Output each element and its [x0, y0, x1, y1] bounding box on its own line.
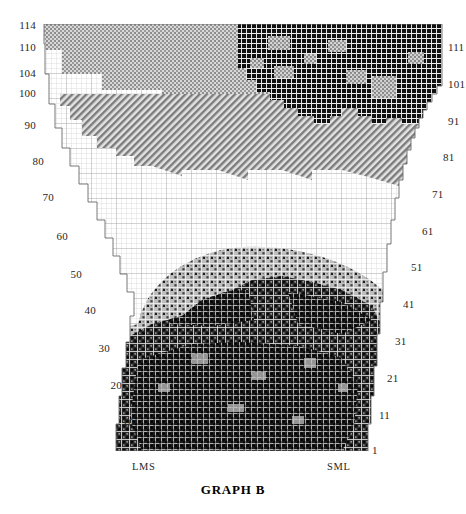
axis-right-tick-31: 31	[395, 336, 406, 347]
bottom-tag-lms: LMS	[132, 461, 155, 472]
axis-right-tick-61: 61	[422, 226, 433, 237]
axis-left-tick-30: 30	[84, 343, 110, 354]
bottom-tag-sml: SML	[327, 461, 350, 472]
axis-left-tick-80: 80	[18, 156, 44, 167]
axis-right-tick-111: 111	[448, 42, 464, 53]
axis-right-tick-41: 41	[403, 299, 414, 310]
axis-right-tick-101: 101	[448, 79, 465, 90]
axis-left-tick-40: 40	[70, 305, 96, 316]
axis-left-tick-50: 50	[56, 269, 82, 280]
band-layer-base	[42, 274, 444, 451]
axis-left-tick-114: 114	[4, 20, 36, 31]
axis-right-tick-21: 21	[387, 373, 398, 384]
axis-left-tick-70: 70	[28, 192, 54, 203]
axis-left-tick-110: 110	[4, 42, 36, 53]
axis-left-tick-104: 104	[4, 68, 36, 79]
axis-left-tick-60: 60	[42, 231, 68, 242]
axis-left-tick-20: 20	[96, 380, 122, 391]
graph-figure: 114 110 104 100 90 80 70 60 50 40 30 20 …	[0, 0, 466, 514]
axis-right-tick-51: 51	[411, 262, 422, 273]
axis-right-tick-71: 71	[432, 189, 443, 200]
axis-right-tick-91: 91	[448, 116, 459, 127]
axis-left-tick-90: 90	[10, 120, 36, 131]
axis-right-tick-1: 1	[372, 445, 378, 456]
axis-right-tick-11: 11	[379, 410, 390, 421]
axis-left-tick-10: 10	[108, 417, 134, 428]
figure-caption: GRAPH B	[0, 482, 466, 498]
axis-left-tick-100: 100	[4, 88, 36, 99]
axis-right-tick-81: 81	[443, 152, 454, 163]
